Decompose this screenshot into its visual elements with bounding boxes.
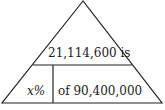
top-text: 21,114,600 is <box>48 46 131 60</box>
percent-label: x% <box>27 84 45 98</box>
bottom-right-text: of 90,400,000 <box>58 84 142 98</box>
